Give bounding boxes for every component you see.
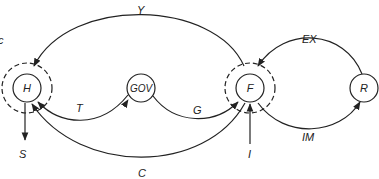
edge-t-arrow xyxy=(60,100,128,120)
node-gov: GOV xyxy=(127,74,155,102)
node-h-label: H xyxy=(23,82,31,94)
label-ex: EX xyxy=(302,33,317,45)
label-i: I xyxy=(248,148,251,160)
circular-flow-diagram: c Y EX T G C IM S I H GOV F R xyxy=(0,0,379,179)
edge-c xyxy=(32,103,245,157)
node-r: R xyxy=(350,74,378,102)
corner-label: c xyxy=(0,34,4,46)
label-s: S xyxy=(19,148,27,160)
label-t: T xyxy=(76,102,84,114)
node-h: H xyxy=(2,63,52,113)
edge-y xyxy=(34,15,244,66)
edge-im xyxy=(258,102,360,129)
node-gov-label: GOV xyxy=(130,83,154,94)
label-y: Y xyxy=(137,4,145,16)
edge-t xyxy=(38,95,128,120)
label-g: G xyxy=(193,104,202,116)
label-im: IM xyxy=(302,131,315,143)
node-r-label: R xyxy=(360,82,368,94)
label-c: C xyxy=(138,167,146,179)
